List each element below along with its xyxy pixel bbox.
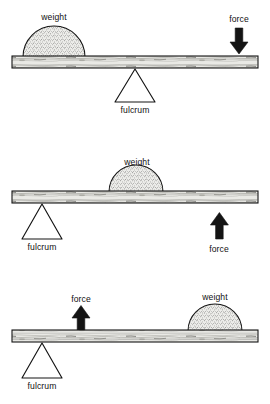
- fulcrum-triangle-3: [22, 343, 62, 378]
- weight-dome-1: [23, 26, 85, 57]
- force-label-1: force: [229, 14, 249, 24]
- lever-beam-1: [12, 56, 258, 68]
- force-arrow-down-icon-1: [230, 28, 248, 54]
- lever-diagram-1: weight fulcrum force: [12, 12, 258, 115]
- lever-diagram-figure: weight fulcrum force: [0, 0, 270, 404]
- lever-beam-3: [12, 330, 258, 342]
- force-arrow-up-icon-3: [72, 306, 90, 333]
- lever-diagram-3: force weight fulcrum: [12, 292, 258, 391]
- fulcrum-triangle-1: [115, 69, 155, 102]
- fulcrum-label-1: fulcrum: [121, 105, 150, 115]
- fulcrum-label-2: fulcrum: [28, 242, 57, 252]
- force-label-2: force: [209, 244, 229, 254]
- weight-label-3: weight: [201, 292, 228, 302]
- fulcrum-label-3: fulcrum: [28, 381, 57, 391]
- lever-diagram-canvas: weight fulcrum force: [0, 0, 270, 404]
- weight-dome-3: [188, 304, 242, 331]
- lever-beam-2: [12, 191, 258, 203]
- force-arrow-up-icon-2: [210, 213, 228, 240]
- lever-diagram-2: weight fulcrum force: [12, 157, 258, 254]
- fulcrum-triangle-2: [22, 204, 62, 239]
- weight-label-1: weight: [40, 12, 67, 22]
- weight-dome-2: [109, 165, 163, 192]
- force-label-3: force: [71, 294, 91, 304]
